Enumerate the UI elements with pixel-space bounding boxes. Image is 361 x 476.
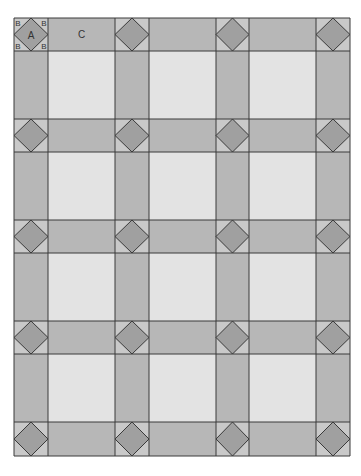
sashing-strip [149,220,216,253]
quilt-block [249,152,316,220]
sashing-strip [149,119,216,152]
sashing-strip [316,354,350,422]
sashing-strip [48,321,115,354]
sashing-strip [14,51,48,119]
sashing-strip [48,220,115,253]
label-corner-b: B [41,42,46,51]
label-corner-b: B [15,19,20,28]
sashing-strip [115,51,149,119]
quilt-block [249,354,316,422]
sashing-strip [115,354,149,422]
quilt-block [48,354,115,422]
quilt-block [149,152,216,220]
sashing-strip [249,220,316,253]
sashing-strip [14,253,48,321]
sashing-strip [249,119,316,152]
label-corner-b: B [41,19,46,28]
sashing-strip [216,51,249,119]
sashing-strip [316,253,350,321]
sashing-strip [115,152,149,220]
sashing-strip [249,422,316,456]
sashing-strip [216,253,249,321]
quilt-diagram: ABBBBC [0,0,361,476]
label-sashing-c: C [78,29,85,40]
sashing-strip [316,152,350,220]
sashing-strip [149,422,216,456]
sashing-strip [14,354,48,422]
quilt-block [48,253,115,321]
sashing-strip [216,354,249,422]
quilt-block [48,51,115,119]
sashing-strip [149,18,216,51]
sashing-strip [48,422,115,456]
label-corner-b: B [15,42,20,51]
quilt-block [149,253,216,321]
sashing-strip [249,321,316,354]
sashing-strip [149,321,216,354]
sashing-strip [48,119,115,152]
sashing-strip [14,152,48,220]
quilt-block [249,51,316,119]
sashing-strip [316,51,350,119]
sashing-strip [216,152,249,220]
label-diamond-a: A [28,30,35,41]
quilt-block [149,354,216,422]
quilt-block [149,51,216,119]
sashing-strip [249,18,316,51]
sashing-strip [115,253,149,321]
quilt-block [48,152,115,220]
quilt-block [249,253,316,321]
